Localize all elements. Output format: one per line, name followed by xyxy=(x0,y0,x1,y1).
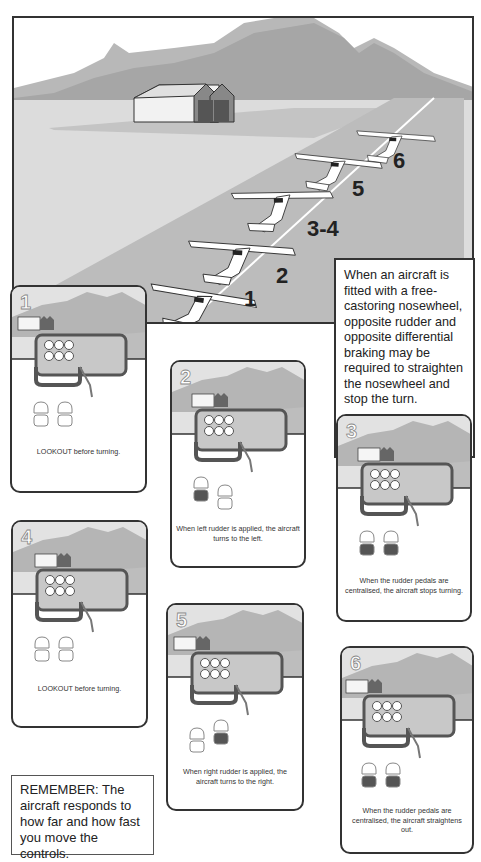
cockpit-view-illustration: 1 xyxy=(12,287,147,493)
card-4-caption: LOOKOUT before turning. xyxy=(17,684,142,694)
step-label-5: 5 xyxy=(352,176,364,202)
card-3-caption: When the rudder pedals are centralised, … xyxy=(342,576,466,595)
card-5-caption: When right rudder is applied, the aircra… xyxy=(172,767,298,786)
step-card-3: 3 When the rudder pedals are centralised… xyxy=(336,414,472,622)
card-6-caption: When the rudder pedals are centralised, … xyxy=(346,806,468,835)
hangar-icon xyxy=(134,84,234,122)
rudder-pedals-icon xyxy=(34,402,72,426)
step-card-5: 5 When right rudder is applied, the airc… xyxy=(166,603,304,811)
card-number-2: 2 xyxy=(180,366,191,388)
rudder-pedals-icon xyxy=(362,763,400,787)
rudder-pedals-icon xyxy=(194,477,232,509)
card-number-1: 1 xyxy=(20,291,31,313)
remember-note: REMEMBER: The aircraft responds to how f… xyxy=(11,775,154,855)
step-card-2: 2 When left rudder is applied, the aircr… xyxy=(170,360,306,568)
step-label-3-4: 3-4 xyxy=(307,216,339,242)
card-2-caption: When left rudder is applied, the aircraf… xyxy=(176,524,300,543)
card-1-caption: LOOKOUT before turning. xyxy=(16,447,141,457)
step-label-6: 6 xyxy=(393,148,405,174)
step-card-1: 1 LOOKOUT before turning. xyxy=(10,285,147,493)
card-number-5: 5 xyxy=(176,609,187,631)
cockpit-view-illustration: 4 xyxy=(13,522,148,728)
rudder-pedals-icon xyxy=(35,637,73,661)
rudder-pedals-icon xyxy=(190,720,228,752)
step-label-1: 1 xyxy=(244,286,256,312)
card-number-6: 6 xyxy=(350,652,361,674)
step-label-2: 2 xyxy=(276,263,288,289)
card-number-4: 4 xyxy=(21,526,33,548)
card-number-3: 3 xyxy=(346,420,357,442)
rudder-pedals-icon xyxy=(360,531,398,555)
step-card-4: 4 LOOKOUT before turning. xyxy=(11,520,148,728)
step-card-6: 6 When the rudder pedals are centralised… xyxy=(340,646,474,854)
